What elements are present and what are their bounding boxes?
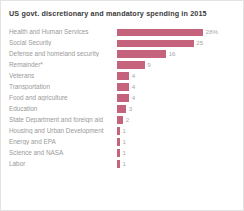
bar-category-label: Science and NASA xyxy=(7,150,117,156)
bar-track: 1 xyxy=(117,148,237,159)
bar-row: Health and Human Services28% xyxy=(7,27,237,38)
bar-row: Remainder*9 xyxy=(7,60,237,71)
bar-category-label: Remainder* xyxy=(7,62,117,68)
bar-fill xyxy=(117,116,123,123)
bar-track: 3 xyxy=(117,104,237,115)
bar-value-label: 1 xyxy=(123,139,126,145)
bar-category-label: Energy and EPA xyxy=(7,139,117,145)
bar-track: 4 xyxy=(117,93,237,104)
bar-row: Housing and Urban Development1 xyxy=(7,126,237,137)
bar-value-label: 2 xyxy=(126,117,129,123)
bar-fill xyxy=(117,72,129,79)
bar-track: 1 xyxy=(117,126,237,137)
bar-category-label: State Department and foreign aid xyxy=(7,117,117,123)
bar-fill xyxy=(117,127,120,134)
bar-row: State Department and foreign aid2 xyxy=(7,115,237,126)
spending-bar-chart-card: US govt. discretionary and mandatory spe… xyxy=(0,0,244,211)
bar-value-label: 28% xyxy=(206,29,218,35)
bar-value-label: 16 xyxy=(169,51,176,57)
bar-value-label: 4 xyxy=(132,84,135,90)
bar-fill xyxy=(117,160,120,167)
bar-fill xyxy=(117,149,120,156)
bar-value-label: 3 xyxy=(129,106,132,112)
bar-track: 2 xyxy=(117,115,237,126)
bar-track: 1 xyxy=(117,159,237,170)
chart-plot-area: Health and Human Services28%Social Secur… xyxy=(7,27,237,170)
bar-row: Food and agriculture4 xyxy=(7,93,237,104)
bar-category-label: Veterans xyxy=(7,73,117,79)
bar-fill xyxy=(117,50,166,57)
bar-track: 9 xyxy=(117,60,237,71)
bar-value-label: 1 xyxy=(123,161,126,167)
bar-track: 16 xyxy=(117,49,237,60)
bar-value-label: 1 xyxy=(123,128,126,134)
bar-row: Social Security25 xyxy=(7,38,237,49)
bar-row: Energy and EPA1 xyxy=(7,137,237,148)
bar-category-label: Transportation xyxy=(7,84,117,90)
bar-row: Labor1 xyxy=(7,159,237,170)
bar-category-label: Social Security xyxy=(7,40,117,46)
bar-track: 28% xyxy=(117,27,237,38)
bar-fill xyxy=(117,29,203,36)
bar-fill xyxy=(117,105,126,112)
bar-row: Science and NASA1 xyxy=(7,148,237,159)
bar-category-label: Health and Human Services xyxy=(7,29,117,35)
bar-fill xyxy=(117,61,145,68)
bar-track: 4 xyxy=(117,82,237,93)
bar-category-label: Food and agriculture xyxy=(7,95,117,101)
bar-fill xyxy=(117,40,194,47)
bar-track: 4 xyxy=(117,71,237,82)
bar-category-label: Education xyxy=(7,106,117,112)
bar-row: Education3 xyxy=(7,104,237,115)
bar-row: Defense and homeland security16 xyxy=(7,49,237,60)
bar-category-label: Housing and Urban Development xyxy=(7,128,117,134)
bar-category-label: Labor xyxy=(7,161,117,167)
bar-value-label: 9 xyxy=(147,62,150,68)
bar-fill xyxy=(117,83,129,90)
bar-track: 1 xyxy=(117,137,237,148)
chart-title: US govt. discretionary and mandatory spe… xyxy=(9,10,237,18)
bar-row: Transportation4 xyxy=(7,82,237,93)
bar-track: 25 xyxy=(117,38,237,49)
bar-value-label: 25 xyxy=(196,40,203,46)
bar-value-label: 1 xyxy=(123,150,126,156)
bar-row: Veterans4 xyxy=(7,71,237,82)
bar-value-label: 4 xyxy=(132,73,135,79)
bar-value-label: 4 xyxy=(132,95,135,101)
bar-category-label: Defense and homeland security xyxy=(7,51,117,57)
bar-fill xyxy=(117,138,120,145)
bar-fill xyxy=(117,94,129,101)
